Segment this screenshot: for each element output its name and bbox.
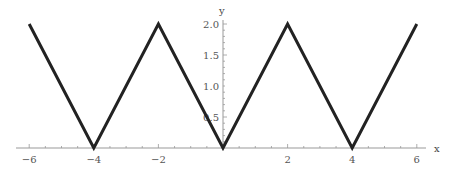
y-axis-label: y	[218, 5, 225, 16]
x-axis-label: x	[434, 143, 440, 154]
y-tick-label: 2.0	[203, 19, 219, 30]
x-tick-label: −6	[22, 154, 37, 165]
x-tick-label: 6	[414, 154, 420, 165]
y-axis-ticks: 0.51.01.52.0	[203, 19, 219, 123]
y-tick-label: 1.5	[203, 50, 219, 61]
x-tick-label: 2	[284, 154, 290, 165]
chart-canvas: −6−4−2246 0.51.01.52.0 x y	[0, 0, 460, 173]
y-axis-minor-ticks	[223, 24, 227, 142]
x-tick-label: −2	[151, 154, 166, 165]
x-tick-label: 4	[349, 154, 355, 165]
x-axis-ticks: −6−4−2246	[22, 154, 420, 165]
x-tick-label: −4	[86, 154, 101, 165]
y-tick-label: 1.0	[203, 81, 219, 92]
